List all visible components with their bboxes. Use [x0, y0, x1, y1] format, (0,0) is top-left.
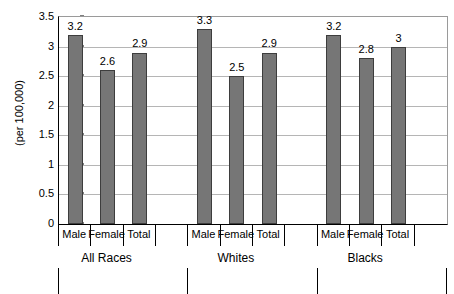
bar-value-label: 3.2 [68, 21, 83, 32]
y-tick-label: 2 [26, 99, 54, 110]
x-category-label: Total [257, 228, 280, 240]
x-category-label: Female [347, 228, 384, 240]
y-tick-label: 3 [26, 40, 54, 51]
x-axis-group-separator [58, 268, 59, 294]
x-axis-tick-separator [381, 224, 382, 246]
x-axis-group-separator [317, 268, 318, 294]
bar-value-label: 3.2 [326, 21, 341, 32]
y-tick-label: 1.5 [26, 129, 54, 140]
x-axis-tick-separator [220, 224, 221, 246]
x-group-label: All Races [81, 252, 132, 265]
bar [132, 53, 147, 225]
bars-layer: 3.22.62.93.32.52.93.22.83 [59, 17, 447, 224]
x-category-label: Total [127, 228, 150, 240]
bar-value-label: 2.9 [262, 38, 277, 49]
bar [359, 58, 374, 224]
x-axis-tick-separator [317, 224, 318, 246]
x-axis-tick-separator [90, 224, 91, 246]
x-axis-tick-separator [349, 224, 350, 246]
bar [391, 47, 406, 224]
x-axis-group-separator [446, 268, 447, 294]
x-group-label: Blacks [347, 252, 382, 265]
y-axis-title-text: (per 100,000) [13, 80, 25, 146]
x-axis-tick-separator [155, 224, 156, 246]
x-group-label: Whites [217, 252, 254, 265]
bar-value-label: 3.3 [197, 15, 212, 26]
y-tick-label: 3.5 [26, 11, 54, 22]
x-axis-tick-separator [284, 224, 285, 246]
y-tick-label: 1 [26, 158, 54, 169]
x-axis-tick-separator [414, 224, 415, 246]
bar [197, 29, 212, 224]
bar [100, 70, 115, 224]
x-category-label: Male [321, 228, 345, 240]
x-axis-group-separator [187, 268, 188, 294]
y-axis-tick-labels: 00.511.522.533.5 [26, 0, 54, 240]
bar-value-label: 2.8 [359, 44, 374, 55]
x-axis-tick-separator [252, 224, 253, 246]
x-category-label: Male [62, 228, 86, 240]
bar-value-label: 2.9 [132, 38, 147, 49]
bar-value-label: 2.5 [229, 62, 244, 73]
x-axis-category-row: MaleFemaleTotalMaleFemaleTotalMaleFemale… [58, 224, 447, 246]
x-category-label: Female [217, 228, 254, 240]
x-axis-tick-separator [58, 224, 59, 246]
bar [262, 53, 277, 225]
x-axis-tick-separator [123, 224, 124, 246]
bar-value-label: 3 [395, 33, 401, 44]
x-category-label: Male [192, 228, 216, 240]
bar [229, 76, 244, 224]
y-tick-label: 0.5 [26, 188, 54, 199]
y-tick-label: 0 [26, 218, 54, 229]
bar-value-label: 2.6 [100, 56, 115, 67]
x-category-label: Female [88, 228, 125, 240]
plot-area: 3.22.62.93.32.52.93.22.83 [58, 16, 448, 225]
x-axis: MaleFemaleTotalMaleFemaleTotalMaleFemale… [58, 224, 447, 278]
y-tick-label: 2.5 [26, 70, 54, 81]
bar [68, 35, 83, 224]
x-axis-tick-separator [187, 224, 188, 246]
x-axis-group-row: All RacesWhitesBlacks [58, 246, 447, 272]
x-category-label: Total [386, 228, 409, 240]
bar [326, 35, 341, 224]
